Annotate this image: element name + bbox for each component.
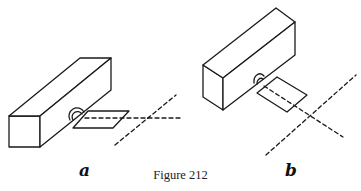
panel-b-drawing	[203, 8, 356, 155]
beam-a	[9, 58, 111, 147]
panel-a-drawing	[9, 58, 180, 147]
figure-caption: Figure 212	[0, 168, 361, 183]
plate-b	[257, 77, 307, 112]
figure-212-illustration	[0, 0, 361, 191]
